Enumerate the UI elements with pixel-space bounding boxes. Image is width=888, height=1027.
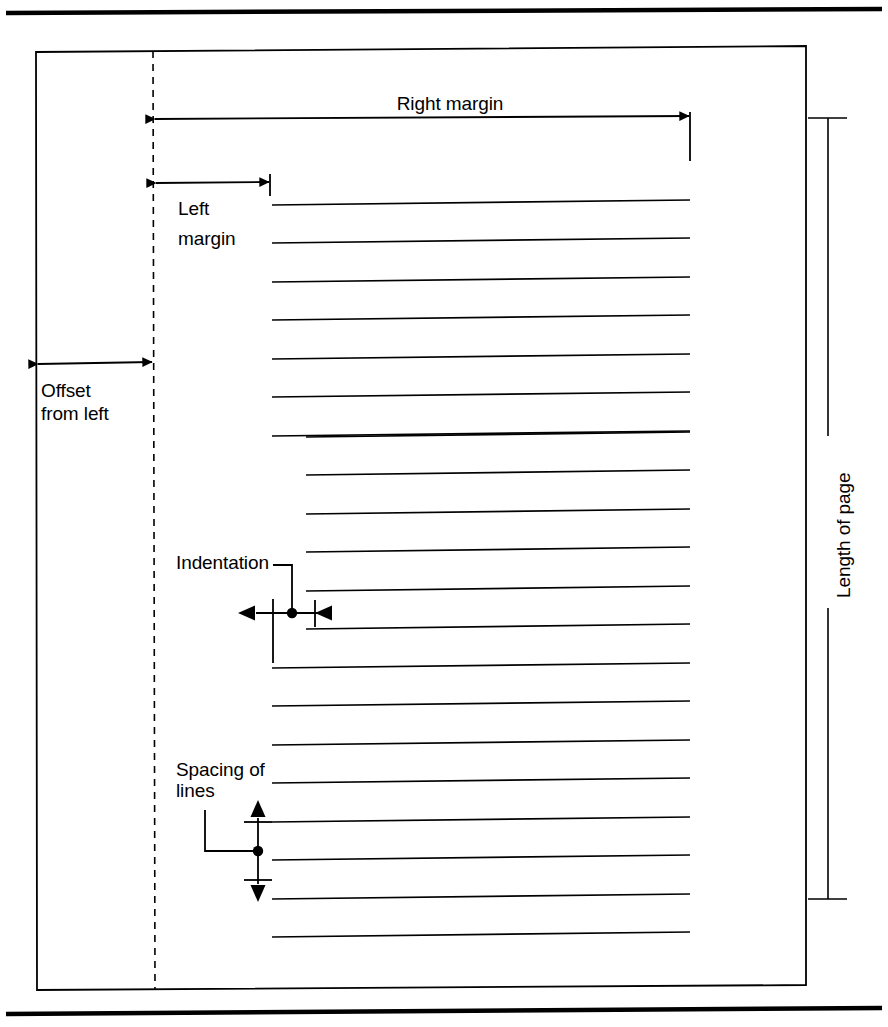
text-line-indented — [306, 586, 690, 591]
label-left-margin-line2: margin — [178, 228, 235, 250]
left-margin-arrow — [156, 182, 269, 183]
indentation-center-dot — [287, 608, 297, 618]
indentation-leader — [273, 565, 292, 612]
indentation-arrow-left — [238, 606, 255, 621]
label-indentation: Indentation — [176, 552, 269, 574]
page-outline — [36, 46, 806, 990]
label-length-of-page: Length of page — [833, 473, 855, 598]
label-spacing-of-lines-line2: lines — [176, 780, 215, 802]
text-lines-group — [272, 200, 690, 937]
text-line — [272, 238, 690, 243]
text-line-indented — [306, 470, 690, 475]
text-line — [272, 817, 690, 822]
offset-guide-line — [153, 51, 155, 989]
text-line-indented — [306, 547, 690, 552]
label-spacing-of-lines-line1: Spacing of — [176, 759, 265, 781]
text-line — [272, 200, 690, 205]
text-line — [272, 932, 690, 937]
right-margin-arrow — [155, 116, 689, 119]
text-line — [272, 392, 690, 397]
text-line — [272, 778, 690, 783]
indentation-callout — [238, 565, 332, 663]
bottom-rule — [6, 1008, 882, 1014]
spacing-arrow-down — [251, 885, 266, 902]
text-line — [272, 701, 690, 706]
text-line — [272, 277, 690, 282]
text-line — [272, 354, 690, 359]
spacing-arrow-up — [251, 800, 266, 817]
text-line-indented — [306, 624, 690, 629]
text-line — [272, 663, 690, 668]
left-margin-dimension — [156, 174, 270, 196]
text-line-indented — [306, 509, 690, 514]
label-offset-from-left-line2: from left — [41, 403, 109, 425]
offset-from-left-dimension — [38, 362, 152, 364]
spacing-of-lines-callout — [205, 800, 272, 902]
label-right-margin: Right margin — [305, 93, 595, 115]
label-left-margin-line1: Left — [178, 198, 209, 220]
text-line — [272, 740, 690, 745]
text-line — [272, 894, 690, 899]
page-layout-diagram: Right margin Left margin Offset from lef… — [0, 0, 888, 1027]
right-margin-dimension — [155, 112, 690, 161]
top-rule — [6, 9, 882, 13]
text-line — [272, 855, 690, 860]
indentation-arrow-right — [315, 606, 332, 621]
spacing-center-dot — [253, 846, 263, 856]
spacing-leader — [205, 810, 257, 851]
label-offset-from-left-line1: Offset — [41, 380, 91, 402]
offset-arrow — [38, 362, 152, 364]
text-line — [272, 315, 690, 320]
diagram-canvas — [0, 0, 888, 1027]
